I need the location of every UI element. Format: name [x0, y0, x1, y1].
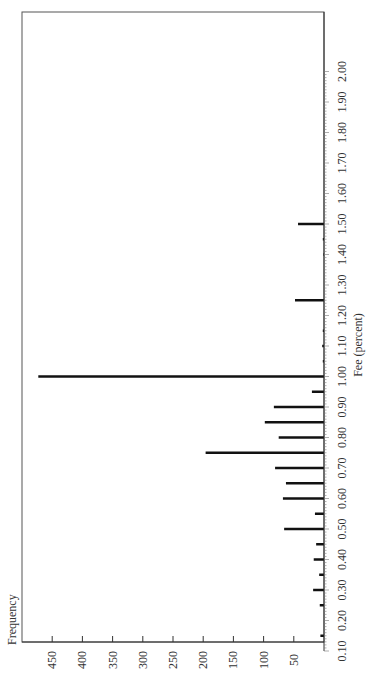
frequency-axis: 50100150200250300350400450: [22, 636, 324, 669]
frequency-tick-label: 350: [106, 651, 120, 669]
fee-tick-label: 1.80: [335, 122, 349, 143]
fee-tick-label: 1.90: [335, 92, 349, 113]
fee-tick-label: 0.40: [335, 549, 349, 570]
fee-tick-label: 0.60: [335, 488, 349, 509]
fee-tick-label: 1.50: [335, 214, 349, 235]
frequency-tick-label: 450: [45, 651, 59, 669]
fee-tick-label: 0.10: [335, 641, 349, 662]
frequency-tick-label: 200: [196, 651, 210, 669]
y-axis-label: Frequency: [5, 594, 19, 645]
frequency-tick-label: 400: [75, 651, 89, 669]
fee-tick-label: 1.30: [335, 275, 349, 296]
x-axis-label: Fee (percent): [351, 313, 365, 377]
frequency-tick-label: 250: [166, 651, 180, 669]
fee-tick-label: 1.00: [335, 366, 349, 387]
fee-tick-label: 2.00: [335, 61, 349, 82]
fee-tick-label: 0.30: [335, 580, 349, 601]
fee-tick-label: 1.20: [335, 305, 349, 326]
frequency-tick-label: 50: [287, 654, 301, 666]
fee-axis: 0.100.200.300.400.500.600.700.800.901.00…: [324, 12, 349, 662]
frequency-tick-label: 100: [257, 651, 271, 669]
fee-tick-label: 1.40: [335, 244, 349, 265]
fee-tick-label: 1.10: [335, 336, 349, 357]
fee-tick-label: 0.80: [335, 427, 349, 448]
fee-tick-label: 0.20: [335, 610, 349, 631]
fee-frequency-chart: 0.100.200.300.400.500.600.700.800.901.00…: [0, 0, 374, 675]
frequency-tick-label: 150: [226, 651, 240, 669]
bars: [38, 224, 324, 636]
plot-frame: [22, 12, 324, 642]
fee-tick-label: 1.60: [335, 183, 349, 204]
fee-tick-label: 1.70: [335, 153, 349, 174]
fee-tick-label: 0.70: [335, 458, 349, 479]
fee-tick-label: 0.90: [335, 397, 349, 418]
frequency-tick-label: 300: [136, 651, 150, 669]
fee-tick-label: 0.50: [335, 519, 349, 540]
